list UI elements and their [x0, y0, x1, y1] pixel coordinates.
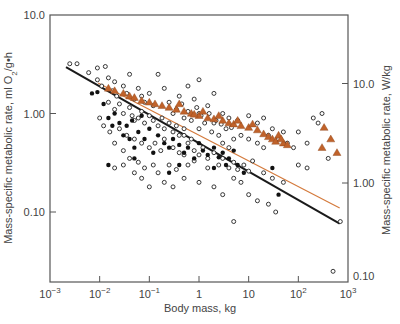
open-circle-point — [189, 118, 193, 122]
open-circle-point — [162, 127, 166, 131]
filled-circle-point — [201, 148, 205, 152]
filled-circle-point — [124, 124, 128, 128]
open-circle-point — [292, 146, 296, 150]
open-circle-point — [140, 141, 144, 145]
open-circle-point — [247, 193, 251, 197]
open-circle-point — [156, 171, 160, 175]
open-circle-point — [121, 149, 125, 153]
x-tick-label: 10−1 — [139, 286, 161, 300]
x-tick-label: 103 — [340, 286, 357, 300]
open-circle-point — [316, 121, 320, 125]
open-circle-point — [212, 185, 216, 189]
open-circle-point — [236, 168, 240, 172]
open-circle-point — [128, 72, 132, 76]
open-circle-point — [221, 193, 225, 197]
open-circle-point — [206, 104, 210, 108]
filled-circle-point — [101, 102, 105, 106]
open-circle-point — [186, 163, 190, 167]
open-circle-point — [192, 97, 196, 101]
open-circle-point — [320, 112, 324, 116]
open-circle-point — [153, 141, 157, 145]
triangle-point — [320, 124, 328, 131]
open-circle-point — [143, 121, 147, 125]
open-circle-point — [221, 141, 225, 145]
triangle-point — [158, 102, 166, 109]
left-y-tick-label: 10.0 — [24, 9, 45, 21]
open-circle-point — [177, 151, 181, 155]
filled-circle-point — [171, 137, 175, 141]
right-y-tick-label: 0.10 — [353, 270, 374, 282]
triangle-point — [234, 116, 242, 123]
open-circle-point — [156, 72, 160, 76]
filled-circle-point — [242, 171, 246, 175]
open-circle-point — [224, 127, 228, 131]
open-circle-point — [270, 127, 274, 131]
left-y-tick-label: 0.10 — [24, 206, 45, 218]
x-tick-label: 10−2 — [89, 286, 111, 300]
open-circle-point — [262, 146, 266, 150]
open-circle-point — [274, 210, 278, 214]
open-circle-point — [100, 84, 104, 88]
left-y-axis-title-main: Mass-specific metabolic rate, ml O — [2, 75, 14, 244]
open-circle-point — [255, 141, 259, 145]
open-circle-point — [128, 156, 132, 160]
open-circle-point — [147, 114, 151, 118]
open-circle-point — [221, 156, 225, 160]
filled-circle-point — [151, 150, 155, 154]
filled-circle-point — [220, 150, 224, 154]
open-circle-point — [167, 121, 171, 125]
open-circle-point — [147, 146, 151, 150]
filled-circle-point — [182, 150, 186, 154]
left-y-axis-title-tail: /g•h — [2, 52, 14, 71]
open-circle-point — [331, 269, 335, 273]
open-circle-point — [121, 84, 125, 88]
open-circle-point — [113, 166, 117, 170]
open-circle-point — [186, 84, 190, 88]
open-circle-point — [239, 133, 243, 137]
filled-circle-point — [121, 133, 125, 137]
filled-circle-point — [270, 166, 274, 170]
open-circle-point — [167, 163, 171, 167]
open-circle-point — [106, 76, 110, 80]
x-tick-label: 10 — [243, 288, 255, 300]
open-circle-point — [281, 130, 285, 134]
right-y-tick-label: 1.00 — [353, 177, 374, 189]
filled-circle-point — [227, 156, 231, 160]
open-circle-point — [177, 133, 181, 137]
filled-circle-point — [167, 171, 171, 175]
left-y-axis-title: Mass-specific metabolic rate, ml O2/g•h — [2, 52, 19, 244]
open-circle-point — [197, 78, 201, 82]
open-circle-point — [206, 166, 210, 170]
open-circle-point — [121, 112, 125, 116]
filled-circle-point — [167, 145, 171, 149]
filled-circle-point — [147, 127, 151, 131]
left-y-axis-ticks: 10.01.000.10 — [24, 9, 56, 218]
filled-circle-point — [186, 145, 190, 149]
filled-circle-point — [132, 145, 136, 149]
open-circle-point — [186, 141, 190, 145]
open-circle-point — [171, 185, 175, 189]
open-circle-point — [212, 151, 216, 155]
plot-frame — [50, 15, 348, 282]
open-circle-point — [197, 153, 201, 157]
open-circle-point — [174, 168, 178, 172]
filled-circle-point — [90, 91, 94, 95]
open-circle-point — [162, 180, 166, 184]
open-circle-point — [189, 137, 193, 141]
open-circle-point — [232, 160, 236, 164]
open-circle-point — [113, 107, 117, 111]
open-circle-point — [113, 80, 117, 84]
open-circle-point — [305, 166, 309, 170]
open-circle-point — [182, 116, 186, 120]
filled-circle-point — [197, 141, 201, 145]
filled-circle-point — [117, 121, 121, 125]
data-markers — [68, 62, 343, 274]
open-circle-point — [266, 202, 270, 206]
filled-circle-point — [206, 153, 210, 157]
open-circle-point — [247, 169, 251, 173]
filled-circle-point — [177, 143, 181, 147]
open-circle-point — [247, 137, 251, 141]
filled-circle-point — [106, 163, 110, 167]
right-y-axis-ticks: 10.01.000.10 — [342, 78, 374, 283]
open-circle-point — [98, 116, 102, 120]
